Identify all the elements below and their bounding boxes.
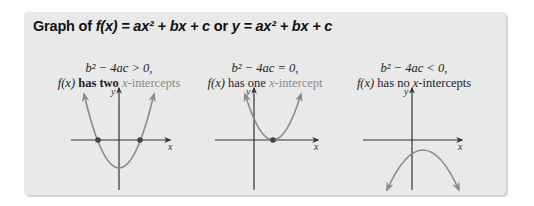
graph-one-intercept: x y bbox=[215, 86, 319, 190]
parabola-graphs: x y x y x y bbox=[0, 0, 534, 206]
y-axis-label: y bbox=[110, 86, 116, 97]
graph-two-intercepts: x y bbox=[71, 86, 173, 190]
graph-no-intercepts: x y bbox=[363, 86, 463, 190]
intercept-point bbox=[270, 137, 276, 143]
y-axis-label: y bbox=[403, 86, 409, 97]
intercept-point bbox=[95, 137, 101, 143]
x-axis-label: x bbox=[167, 141, 173, 152]
x-axis-label: x bbox=[457, 141, 463, 152]
parabola-curve bbox=[387, 150, 459, 190]
intercept-point bbox=[137, 137, 143, 143]
x-axis-label: x bbox=[313, 141, 319, 152]
